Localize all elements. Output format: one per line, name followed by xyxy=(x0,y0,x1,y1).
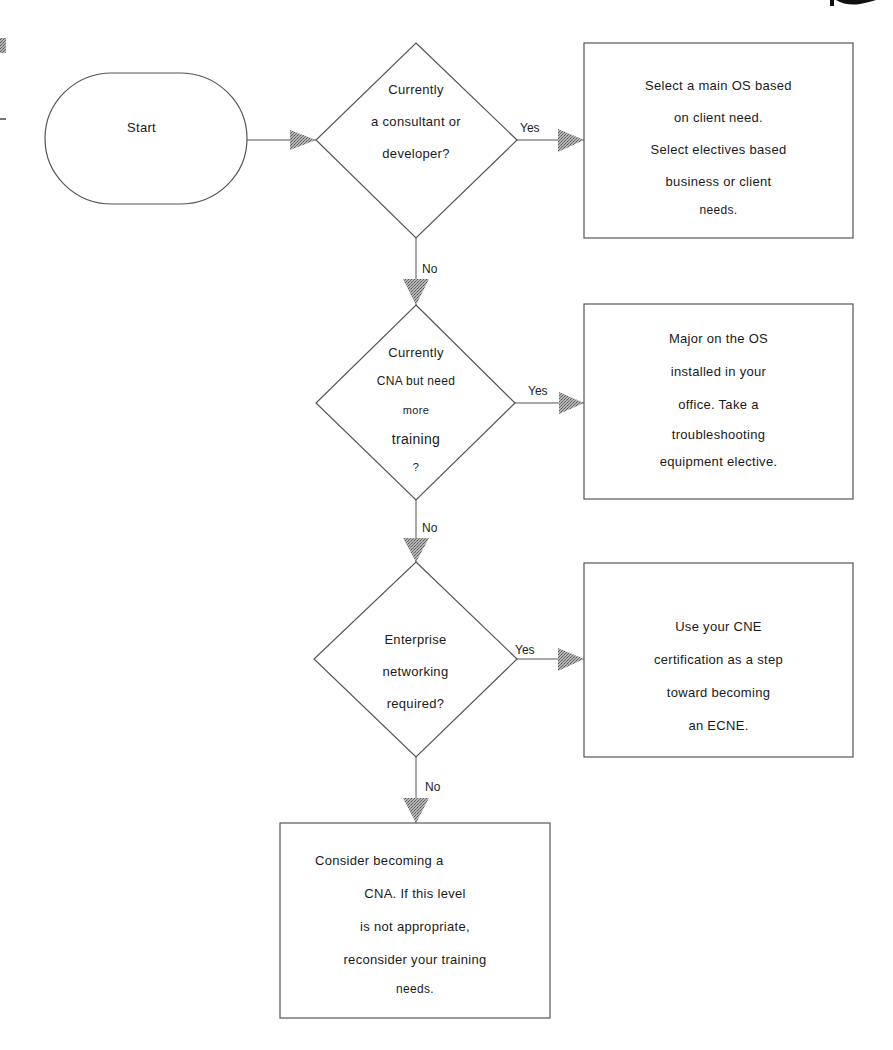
text-line: toward becoming xyxy=(584,676,853,709)
text-line: is not appropriate, xyxy=(280,910,550,943)
arrowhead-right-icon xyxy=(558,129,584,152)
arrowhead-right-icon xyxy=(558,648,584,671)
cropped-heading-fragment xyxy=(836,0,876,5)
no-label: No xyxy=(422,262,437,276)
text-line: CNA. If this level xyxy=(280,877,550,910)
process-box-ecne-text: Use your CNE certification as a step tow… xyxy=(584,610,853,742)
text-line: Select electives based xyxy=(584,134,853,166)
text-line: needs. xyxy=(584,198,853,222)
text-line: an ECNE. xyxy=(584,709,853,742)
text-line: needs. xyxy=(280,976,550,1003)
text-line: required? xyxy=(314,688,517,720)
text-line: Major on the OS xyxy=(584,322,853,355)
text-line: Use your CNE xyxy=(584,610,853,643)
text-line: Currently xyxy=(316,74,516,106)
text-line: ? xyxy=(316,454,516,480)
decision-cna-training-text: Currently CNA but need more training ? xyxy=(316,338,516,480)
start-label: Start xyxy=(127,120,156,135)
arrowhead-down-icon xyxy=(403,538,429,562)
margin-mark xyxy=(0,38,6,53)
cropped-heading-fragment xyxy=(830,0,834,6)
text-line: reconsider your training xyxy=(280,943,550,976)
text-line: business or client xyxy=(584,166,853,198)
text-line: Select a main OS based xyxy=(584,70,853,102)
yes-label: Yes xyxy=(520,121,540,135)
process-box-consultant-text: Select a main OS based on client need. S… xyxy=(584,70,853,222)
text-line: on client need. xyxy=(584,102,853,134)
text-line: a consultant or xyxy=(316,106,516,138)
process-box-cna-text: Major on the OS installed in your office… xyxy=(584,322,853,475)
arrowhead-right-icon xyxy=(559,392,584,414)
text-line: Enterprise xyxy=(314,624,517,656)
text-line: developer? xyxy=(316,138,516,170)
decision-consultant-developer-text: Currently a consultant or developer? xyxy=(316,42,516,170)
process-box-consider-cna-text: Consider becoming a CNA. If this level i… xyxy=(280,844,550,1003)
decision-enterprise-networking-text: Enterprise networking required? xyxy=(314,624,517,720)
yes-label: Yes xyxy=(515,643,535,657)
text-line: installed in your xyxy=(584,355,853,388)
text-line: Currently xyxy=(316,338,516,367)
text-line: troubleshooting xyxy=(584,421,853,448)
no-label: No xyxy=(425,780,440,794)
arrowhead-right-icon xyxy=(290,130,316,150)
text-line: training xyxy=(316,424,516,454)
text-line: Consider becoming a xyxy=(280,844,550,877)
arrowhead-down-icon xyxy=(403,798,429,823)
start-terminator[interactable] xyxy=(45,73,247,204)
no-label: No xyxy=(422,521,437,535)
text-line: networking xyxy=(314,656,517,688)
text-line: CNA but need xyxy=(316,367,516,396)
text-line: equipment elective. xyxy=(584,448,853,475)
arrowhead-down-icon xyxy=(403,279,429,305)
text-line: certification as a step xyxy=(584,643,853,676)
text-line: more xyxy=(316,396,516,424)
text-line: office. Take a xyxy=(584,388,853,421)
yes-label: Yes xyxy=(528,384,548,398)
